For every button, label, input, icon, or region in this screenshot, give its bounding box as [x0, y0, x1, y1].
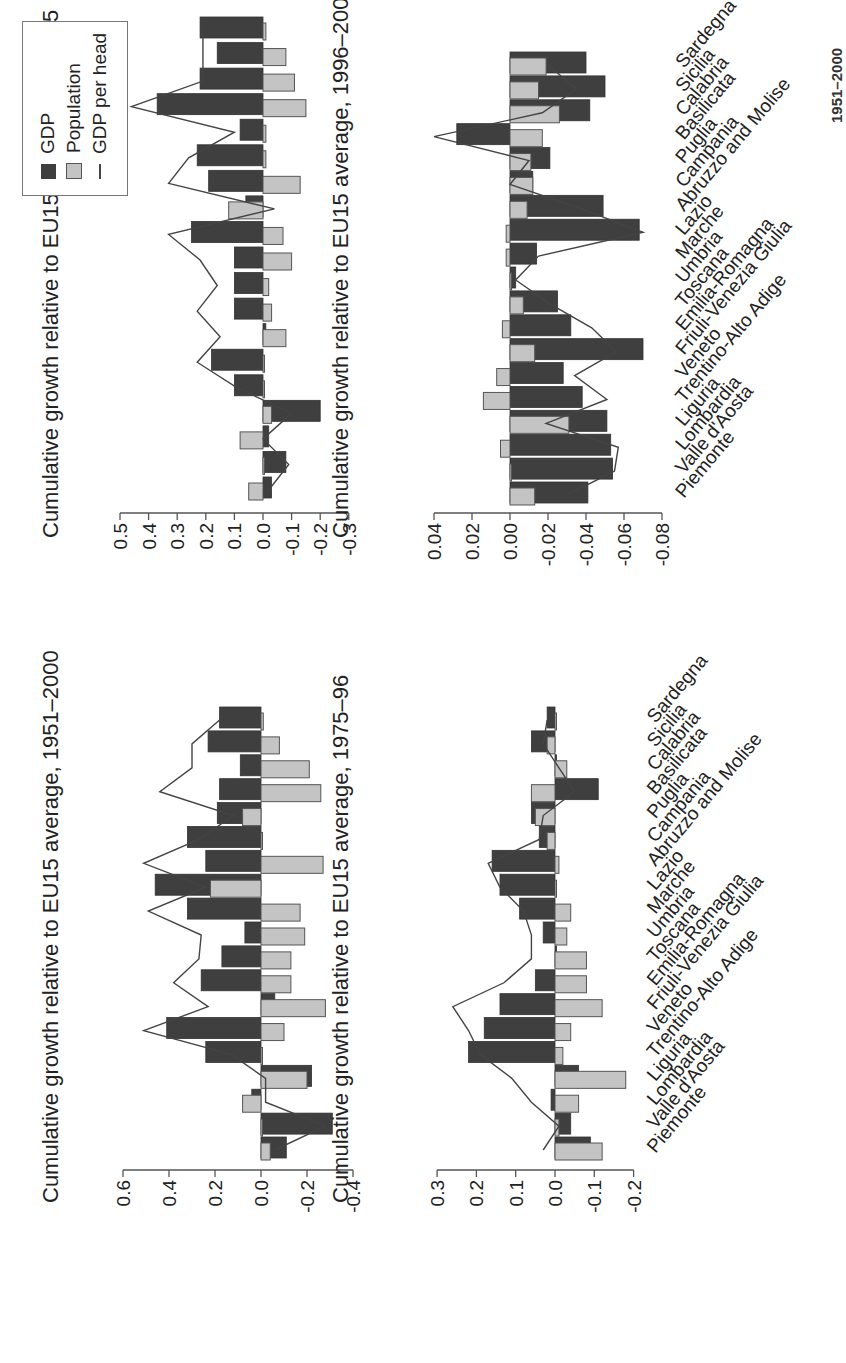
chart-1975-96: Cumulative growth relative to EU15 avera…: [0, 0, 846, 1363]
gdp-swatch-icon: [41, 164, 56, 179]
population-bar: [555, 904, 571, 921]
population-bar: [555, 1000, 602, 1017]
legend-item-population: Population: [63, 63, 85, 179]
legend-label-gdp-per-head: GDP per head: [89, 33, 111, 154]
population-bar: [531, 785, 555, 802]
population-bar: [555, 976, 586, 993]
population-bar: [547, 832, 555, 849]
figure-page: Cumulative growth relative to EU15 avera…: [0, 0, 846, 1363]
y-tick-label: 0.0: [545, 1180, 566, 1206]
gdp-bar: [492, 850, 555, 871]
population-bar: [555, 1071, 626, 1088]
y-tick-label: -0.1: [584, 1180, 605, 1213]
gdp-bar: [547, 707, 555, 728]
gdp-bar: [469, 1041, 555, 1062]
gdp-bar: [551, 1089, 555, 1110]
gdp-bar: [555, 779, 598, 800]
population-bar: [555, 1143, 602, 1160]
population-bar: [555, 1095, 579, 1112]
population-bar: [535, 809, 555, 826]
population-bar: [555, 856, 559, 873]
legend-label-gdp: GDP: [37, 113, 59, 154]
legend: GDP Population GDP per head: [22, 21, 128, 196]
gdp-bar: [484, 1018, 555, 1039]
gdp-bar: [543, 922, 555, 943]
gdp-bar: [500, 874, 555, 895]
population-bar: [555, 1024, 571, 1041]
legend-label-population: Population: [63, 63, 85, 153]
figure-caption: 1951–2000: [822, 0, 846, 1363]
chart-title: Cumulative growth relative to EU15 avera…: [328, 675, 353, 1203]
population-bar: [555, 952, 586, 969]
y-tick-label: 0.2: [466, 1180, 487, 1206]
panel-1975-96: Cumulative growth relative to EU15 avera…: [0, 0, 846, 1363]
population-bar: [555, 1047, 563, 1064]
line-swatch-icon: [99, 164, 101, 179]
population-bar: [555, 928, 567, 945]
gdp-bar: [500, 994, 555, 1015]
legend-item-gdp-per-head: GDP per head: [89, 33, 111, 179]
y-tick-label: 0.1: [506, 1180, 527, 1206]
y-tick-label: 0.3: [427, 1180, 448, 1206]
gdp-bar: [535, 970, 555, 991]
legend-item-gdp: GDP: [37, 113, 59, 179]
population-bar: [555, 713, 557, 730]
caption-text: 1951–2000: [828, 48, 845, 123]
population-swatch-icon: [66, 163, 82, 179]
chart-group: Cumulative growth relative to EU15 avera…: [328, 650, 768, 1213]
population-bar: [555, 880, 557, 897]
y-tick-label: -0.2: [624, 1180, 645, 1213]
